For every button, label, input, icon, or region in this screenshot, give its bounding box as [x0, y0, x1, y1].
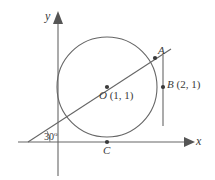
x-axis-arrowhead — [184, 137, 195, 147]
angle-label: 30o — [44, 131, 58, 142]
point-marker-a — [153, 56, 157, 60]
point-label-b: B (2, 1) — [167, 79, 200, 90]
y-axis-label: y — [45, 10, 50, 22]
point-label-a: A — [158, 45, 165, 56]
geometry-figure: y x A O (1, 1) B (2, 1) C 30o — [0, 0, 215, 180]
point-label-o-letter: O — [99, 89, 107, 101]
angle-value: 30 — [44, 131, 54, 142]
point-label-b-letter: B — [167, 78, 174, 90]
y-axis-arrowhead — [53, 11, 63, 24]
point-label-o-coords: (1, 1) — [107, 89, 134, 101]
angle-degree-symbol: o — [54, 130, 58, 138]
point-marker-b — [161, 85, 165, 89]
point-label-b-coords: (2, 1) — [174, 78, 201, 90]
point-label-o: O (1, 1) — [99, 90, 134, 101]
point-label-c: C — [103, 145, 110, 156]
x-axis-label: x — [196, 135, 201, 147]
